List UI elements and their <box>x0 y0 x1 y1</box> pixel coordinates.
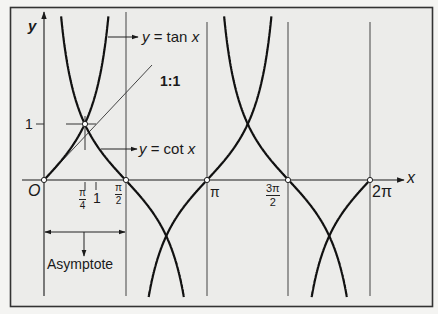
cot-label-eq: = cot <box>151 140 184 157</box>
denominator: 2 <box>116 196 122 206</box>
numerator: 3π <box>266 183 280 194</box>
cot-label-y: y <box>139 140 147 157</box>
tan-label-x: x <box>192 28 200 45</box>
tan-label-y: y <box>142 28 150 45</box>
x-axis-label: x <box>407 170 415 186</box>
x-tick-2pi-label: 2π <box>372 184 392 200</box>
cot-label-x: x <box>188 140 196 157</box>
origin-label: O <box>28 183 40 199</box>
cot-curve-label: y = cot x <box>139 141 195 156</box>
x-tick-1-label: 1 <box>93 191 101 205</box>
y-axis-label: y <box>28 18 36 33</box>
x-tick-pi-over-2: π2 <box>115 183 122 206</box>
denominator: 2 <box>270 197 276 208</box>
tan-curve-label: y = tan x <box>142 29 199 44</box>
asymptote-label: Asymptote <box>47 257 113 271</box>
ratio-label: 1:1 <box>160 74 180 88</box>
numerator: π <box>115 183 122 193</box>
denominator: 4 <box>80 201 86 211</box>
x-tick-3pi-over-2: 3π2 <box>266 183 280 208</box>
numerator: π <box>79 188 86 198</box>
y-tick-1-label: 1 <box>25 117 33 131</box>
tan-label-eq: = tan <box>154 28 188 45</box>
x-tick-pi-over-4: π4 <box>79 188 86 211</box>
x-tick-pi-label: π <box>210 185 220 199</box>
